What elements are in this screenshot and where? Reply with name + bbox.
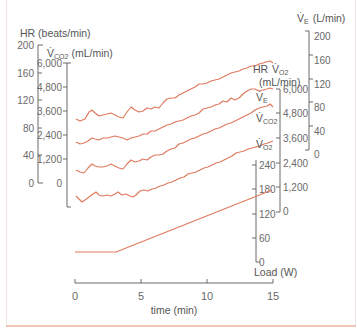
vco2-axis: V̇CO2(mL/min) 6,000 4,800 3,600 2,400 1,… xyxy=(37,47,113,207)
vo2-series-label: V̇O2 xyxy=(256,138,272,151)
vco2-tick-0: 0 xyxy=(56,178,62,189)
ve-tick-160: 160 xyxy=(314,55,331,66)
vo2-curve xyxy=(76,141,273,202)
vco2-tick-6000: 6,000 xyxy=(37,58,62,69)
vo2-tick-2400: 2,400 xyxy=(283,158,308,169)
ve-tick-40: 40 xyxy=(314,126,326,137)
time-tick-5: 5 xyxy=(138,290,144,302)
ve-tick-80: 80 xyxy=(314,102,326,113)
load-curve xyxy=(75,190,272,252)
load-tick-180: 180 xyxy=(259,184,276,195)
load-axis: 240 180 120 60 0 Load (W) xyxy=(252,160,297,278)
ve-curve xyxy=(76,88,273,144)
hr-tick-40: 40 xyxy=(23,150,35,161)
vco2-tick-1200: 1,200 xyxy=(37,154,62,165)
time-tick-0: 0 xyxy=(72,290,78,302)
hr-series-label: HR xyxy=(253,63,269,75)
time-tick-10: 10 xyxy=(201,290,213,302)
ve-tick-200: 200 xyxy=(314,31,331,42)
vco2-tick-3600: 3,600 xyxy=(37,106,62,117)
vo2-tick-0: 0 xyxy=(283,206,289,217)
time-tick-15: 15 xyxy=(267,290,279,302)
load-tick-240: 240 xyxy=(259,160,276,171)
ve-tick-120: 120 xyxy=(314,79,331,90)
chart-frame: HR (beats/min) 200 160 120 80 40 0 V̇CO2… xyxy=(0,0,357,331)
hr-tick-200: 200 xyxy=(17,40,34,51)
ve-series-label: V̇E xyxy=(256,91,268,104)
vco2-tick-2400: 2,400 xyxy=(37,130,62,141)
load-axis-label: Load (W) xyxy=(254,266,297,278)
vco2-tick-4800: 4,800 xyxy=(37,82,62,93)
hr-axis-label: HR (beats/min) xyxy=(20,27,91,39)
vo2-axis-label-main: V̇O2 xyxy=(272,63,288,76)
time-axis: 0 5 10 15 time (min) xyxy=(72,279,279,316)
vo2-tick-1200: 1,200 xyxy=(283,182,308,193)
vo2-tick-3600: 3,600 xyxy=(283,133,308,144)
time-axis-label: time (min) xyxy=(151,304,198,316)
load-tick-60: 60 xyxy=(259,233,271,244)
vo2-tick-6000: 6,000 xyxy=(283,84,308,95)
chart-svg: HR (beats/min) 200 160 120 80 40 0 V̇CO2… xyxy=(0,0,357,331)
curves xyxy=(75,61,273,252)
hr-tick-120: 120 xyxy=(17,95,34,106)
vco2-series-label: V̇CO2 xyxy=(256,112,278,125)
vo2-tick-4800: 4,800 xyxy=(283,108,308,119)
ve-axis-label: V̇E(L/min) xyxy=(297,12,345,25)
hr-tick-80: 80 xyxy=(23,123,35,134)
hr-tick-0: 0 xyxy=(28,178,34,189)
hr-curve xyxy=(76,61,273,121)
hr-tick-160: 160 xyxy=(17,68,34,79)
load-tick-120: 120 xyxy=(259,209,276,220)
ve-tick-0: 0 xyxy=(314,149,320,160)
